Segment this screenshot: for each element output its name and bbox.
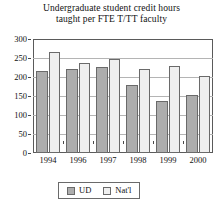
x-axis: 199419961997199819992000 — [33, 155, 213, 169]
bar-natl — [199, 76, 211, 153]
x-tick-label: 1994 — [40, 155, 57, 165]
bars-layer — [33, 39, 213, 153]
y-tick-label: 100 — [14, 111, 27, 120]
legend-swatch-icon — [103, 187, 111, 195]
y-tick-mark — [28, 96, 31, 97]
x-tick-mark — [93, 141, 94, 144]
bar-ud — [186, 95, 198, 153]
bar-group — [63, 39, 93, 153]
x-tick-mark — [123, 141, 124, 144]
x-tick-label: 1996 — [70, 155, 87, 165]
bar-natl — [139, 69, 151, 153]
chart-figure: Undergraduate student credit hours taugh… — [0, 0, 223, 210]
x-tick-label: 2000 — [190, 155, 207, 165]
y-tick-label: 300 — [14, 35, 27, 44]
bar-group — [123, 39, 153, 153]
bar-ud — [66, 69, 78, 153]
plot-area — [33, 39, 213, 153]
y-tick-label: 50 — [19, 130, 28, 139]
bar-group — [183, 39, 213, 153]
y-tick-label: 150 — [14, 92, 27, 101]
y-tick-label: 250 — [14, 54, 27, 63]
legend-label: Nat'l — [115, 186, 131, 195]
y-tick-mark — [28, 39, 31, 40]
legend-swatch-icon — [67, 187, 75, 195]
bar-natl — [49, 52, 61, 153]
y-tick-mark — [28, 77, 31, 78]
y-tick-label: 0 — [23, 149, 27, 158]
y-tick-mark — [28, 153, 31, 154]
y-tick-mark — [28, 134, 31, 135]
bar-ud — [36, 71, 48, 153]
bar-natl — [79, 63, 91, 153]
bar-ud — [156, 101, 168, 153]
x-tick-label: 1997 — [100, 155, 117, 165]
x-tick-mark — [63, 141, 64, 144]
x-tick-mark — [153, 141, 154, 144]
chart-title: Undergraduate student credit hours taugh… — [0, 3, 223, 25]
legend-label: UD — [79, 186, 91, 195]
chart-legend: UDNat'l — [58, 182, 140, 199]
bar-natl — [109, 59, 121, 153]
legend-entry: UD — [67, 186, 91, 195]
bar-natl — [169, 66, 181, 153]
x-tick-mark — [183, 141, 184, 144]
bar-group — [153, 39, 183, 153]
bar-group — [93, 39, 123, 153]
bar-ud — [126, 85, 138, 153]
y-tick-mark — [28, 58, 31, 59]
x-tick-label: 1999 — [160, 155, 177, 165]
y-tick-mark — [28, 115, 31, 116]
chart-title-line-2: taught per FTE T/TT faculty — [0, 14, 223, 25]
legend-entry: Nat'l — [103, 186, 131, 195]
x-tick-label: 1998 — [130, 155, 147, 165]
bar-group — [33, 39, 63, 153]
chart-title-line-1: Undergraduate student credit hours — [0, 3, 223, 14]
bar-ud — [96, 67, 108, 153]
y-axis: 050100150200250300 — [0, 33, 31, 159]
y-tick-label: 200 — [14, 73, 27, 82]
